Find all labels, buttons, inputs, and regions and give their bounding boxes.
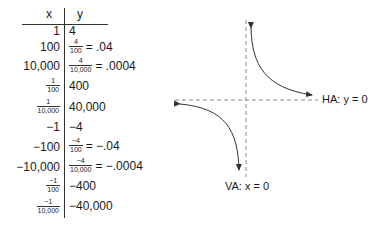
x-value: 1: [53, 24, 60, 38]
y-value: −410,000 = −.0004: [69, 157, 143, 174]
x-value: 1100: [46, 77, 60, 94]
x-value: −1100: [46, 177, 60, 194]
y-value: −400: [69, 179, 96, 193]
y-value: −4100 = −.04: [69, 137, 120, 154]
fraction: −110,000: [37, 198, 60, 215]
fraction: 410,000: [69, 57, 92, 74]
y-value: 4100 = .04: [69, 38, 113, 55]
fraction: −410,000: [69, 157, 92, 174]
x-value: −100: [33, 140, 60, 154]
header-divider: [22, 24, 108, 25]
fraction: −1100: [46, 177, 60, 194]
fraction: 110,000: [37, 98, 60, 115]
x-value: −10,000: [16, 160, 60, 174]
value-table: x y 1 4 100 4100 = .04 10,000 410,000 = …: [0, 0, 160, 225]
x-value: 10,000: [23, 59, 60, 73]
x-value: −1: [46, 120, 60, 134]
y-value: 40,000: [69, 100, 106, 114]
column-divider: [64, 8, 65, 218]
x-value: 110,000: [37, 98, 60, 115]
y-value: 400: [69, 79, 89, 93]
y-header: y: [77, 7, 83, 21]
y-value: −40,000: [69, 199, 113, 213]
y-value: −4: [69, 120, 83, 134]
graph-svg: [160, 0, 385, 225]
x-value: −110,000: [37, 198, 60, 215]
x-value: 100: [40, 40, 60, 54]
lower-branch: [180, 104, 239, 170]
y-value: 410,000 = .0004: [69, 57, 136, 74]
upper-branch: [251, 28, 312, 95]
hyperbola-graph: HA: y = 0 VA: x = 0: [160, 0, 385, 225]
ha-label: HA: y = 0: [322, 93, 368, 105]
va-label: VA: x = 0: [225, 180, 269, 192]
fraction: 1100: [46, 77, 60, 94]
fraction: −4100: [69, 137, 83, 154]
fraction: 4100: [69, 38, 83, 55]
y-value: 4: [69, 24, 76, 38]
x-header: x: [46, 7, 52, 21]
